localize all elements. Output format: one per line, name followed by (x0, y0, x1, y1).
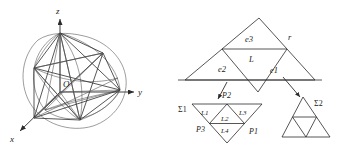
edge-label-e1: e1 (270, 65, 278, 75)
sigma2-midline-left (293, 117, 307, 137)
sigma1-sub-label-L4: L4 (220, 127, 229, 135)
axis-group (20, 19, 134, 131)
sigma2-label: Σ2 (314, 99, 323, 108)
figure-root: z y x O e3 r e2 e1 L (0, 0, 341, 150)
octahedron-sphere-svg: z y x O e3 r e2 e1 L (0, 0, 341, 150)
center-label-L: L (248, 54, 254, 64)
y-axis-label: y (137, 87, 142, 97)
sigma1-sub-label-L3: L3 (238, 109, 247, 117)
sigma1-sub-label-L1: L1 (200, 109, 208, 117)
x-axis-label: x (9, 134, 14, 144)
sigma1-sub-label-L2: L2 (220, 115, 229, 123)
edge-label-e3: e3 (245, 34, 253, 44)
origin-label: O (63, 79, 70, 89)
point-label-P1: P1 (248, 127, 258, 136)
vertex-label-r: r (288, 32, 292, 42)
sigma2-triangle (282, 97, 330, 137)
edge-label-e2: e2 (218, 64, 227, 74)
z-axis-label: z (55, 6, 60, 16)
sigma2-midline-right (306, 117, 317, 137)
point-label-P2: P2 (221, 91, 231, 100)
sigma1-label: Σ1 (178, 105, 187, 114)
point-label-P3: P3 (195, 125, 205, 134)
